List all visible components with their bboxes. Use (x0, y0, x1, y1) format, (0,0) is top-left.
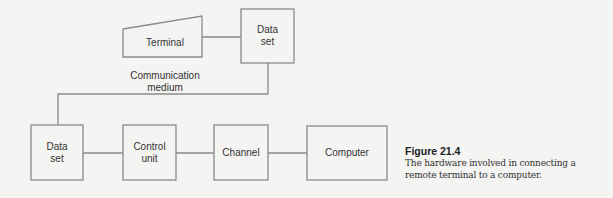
figure-caption: Figure 21.4 The hardware involved in con… (405, 145, 605, 181)
data-set-remote-label: Data set (241, 9, 294, 63)
control-unit-label: Control unit (123, 125, 176, 180)
data-set-local-label: Data set (31, 125, 83, 180)
computer-text: Computer (325, 147, 369, 159)
control-unit-line2: unit (141, 153, 157, 165)
terminal-text: Terminal (146, 37, 184, 49)
data-set-local-line2: set (50, 153, 63, 165)
computer-label: Computer (307, 126, 387, 180)
data-set-local-line1: Data (46, 141, 67, 153)
channel-text: Channel (222, 147, 259, 159)
data-set-remote-line1: Data (257, 24, 278, 36)
terminal-label: Terminal (128, 29, 202, 57)
data-set-remote-line2: set (261, 36, 274, 48)
control-unit-line1: Control (133, 141, 165, 153)
medium-line2: medium (122, 82, 208, 94)
channel-label: Channel (214, 125, 268, 180)
medium-line1: Communication (122, 70, 208, 82)
communication-medium-label: Communication medium (122, 70, 208, 94)
caption-text: The hardware involved in connecting a re… (405, 157, 605, 181)
caption-title: Figure 21.4 (405, 145, 605, 157)
